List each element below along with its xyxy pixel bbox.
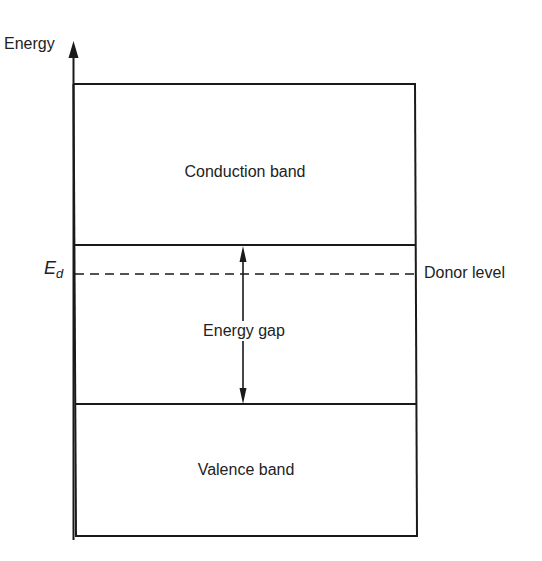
arrow-up-icon — [240, 246, 247, 262]
donor-level-label: Donor level — [424, 265, 505, 281]
valence-band-label: Valence band — [198, 462, 295, 478]
conduction-band-label: Conduction band — [185, 164, 306, 180]
donor-energy-symbol-main: E — [44, 258, 56, 278]
box-right-edge — [415, 83, 417, 537]
arrow-down-icon — [240, 388, 247, 404]
energy-axis-arrowhead-icon — [69, 41, 79, 58]
donor-energy-symbol: Ed — [44, 258, 63, 281]
energy-gap-label: Energy gap — [201, 321, 287, 341]
energy-axis-label: Energy — [4, 36, 55, 52]
donor-energy-symbol-subscript: d — [56, 266, 63, 281]
